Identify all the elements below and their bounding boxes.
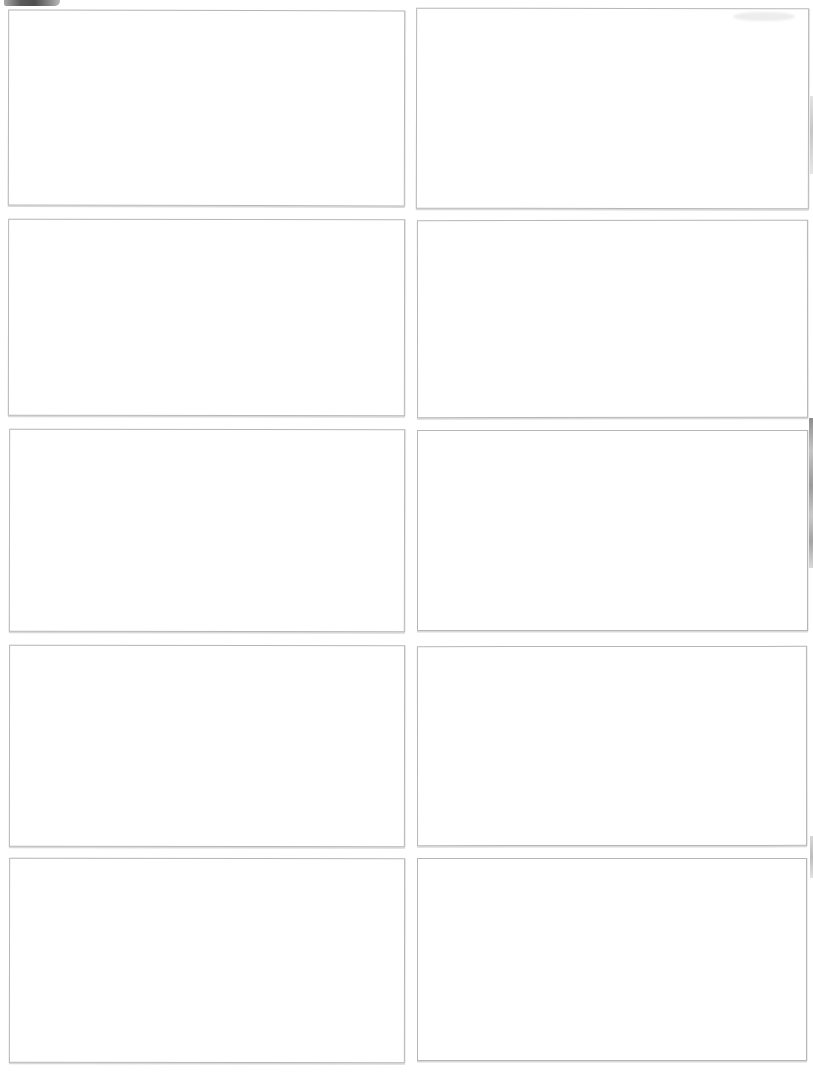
scanned-blank-card-sheet	[0, 0, 813, 1079]
blank-card-r5-c1	[9, 858, 405, 1064]
blank-card-r3-c2	[417, 430, 808, 631]
scan-streak-right-middle	[809, 418, 813, 568]
blank-card-r4-c2	[417, 646, 807, 846]
scan-smudge-top-left	[4, 0, 60, 6]
blank-card-r1-c2	[416, 8, 809, 210]
blank-card-r4-c1	[9, 645, 405, 847]
blank-card-r2-c2	[417, 220, 808, 418]
blank-card-r1-c1	[8, 10, 405, 207]
blank-card-r2-c1	[8, 219, 405, 417]
blank-card-r3-c1	[9, 429, 405, 633]
blank-card-r5-c2	[417, 858, 807, 1061]
